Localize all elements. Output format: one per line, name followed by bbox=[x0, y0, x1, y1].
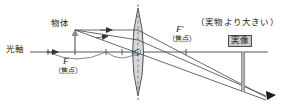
diagram-canvas bbox=[0, 0, 283, 104]
real-image-arrow bbox=[242, 52, 245, 92]
label-focus-right-sub: （焦点） bbox=[168, 35, 196, 43]
distance-arc-group bbox=[48, 52, 138, 59]
image-convergence-arrowhead bbox=[266, 91, 276, 100]
label-lens-center: O bbox=[133, 50, 139, 58]
label-focus-left-sub: （焦点） bbox=[54, 67, 82, 75]
distance-arc-1 bbox=[48, 52, 106, 59]
label-comparison-note: （実物より大きい） bbox=[196, 18, 279, 27]
label-real-image: 実像 bbox=[228, 35, 252, 47]
label-object: 物体 bbox=[51, 19, 69, 28]
lens-diagram-figure: 光軸 物体 F （焦点） F' （焦点） （実物より大きい） O 実像 bbox=[0, 0, 283, 104]
label-optical-axis: 光軸 bbox=[6, 45, 24, 54]
